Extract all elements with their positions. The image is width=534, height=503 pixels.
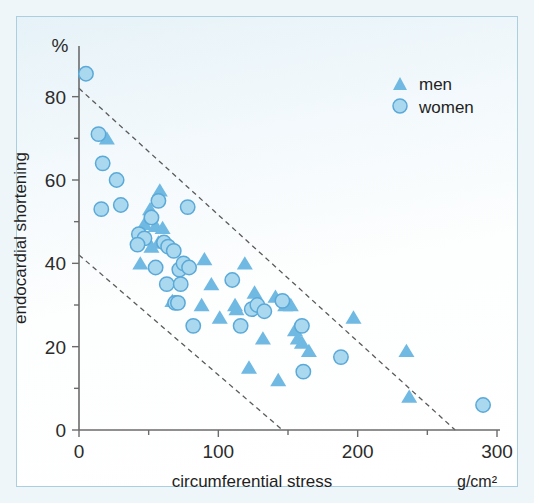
data-point-women xyxy=(167,244,181,258)
data-point-women xyxy=(79,67,93,81)
data-point-men xyxy=(270,373,286,386)
data-point-women xyxy=(171,296,185,310)
legend-label-men: men xyxy=(419,75,452,94)
y-tick-label: 60 xyxy=(45,170,66,191)
data-point-women xyxy=(180,200,194,214)
data-point-women xyxy=(257,304,271,318)
x-tick-label: 100 xyxy=(202,441,234,462)
legend-marker-men xyxy=(393,77,407,90)
data-point-women xyxy=(334,350,348,364)
data-point-women xyxy=(151,194,165,208)
x-tick-label: 300 xyxy=(481,441,513,462)
data-point-women xyxy=(225,273,239,287)
tick-group: 0100200300020406080 xyxy=(45,87,513,462)
data-point-men xyxy=(212,310,228,323)
x-tick-label: 200 xyxy=(342,441,374,462)
data-point-men xyxy=(255,331,271,344)
legend-marker-women xyxy=(393,99,407,113)
data-point-women xyxy=(233,319,247,333)
data-point-men xyxy=(398,344,414,357)
data-point-women xyxy=(148,260,162,274)
data-point-women xyxy=(295,319,309,333)
data-point-women xyxy=(174,277,188,291)
data-point-men xyxy=(203,277,219,290)
y-tick-label: 80 xyxy=(45,87,66,108)
y-unit-label: % xyxy=(52,35,69,56)
data-point-women xyxy=(95,156,109,170)
legend: men women xyxy=(393,75,474,117)
data-point-men xyxy=(196,252,212,265)
data-point-women xyxy=(296,364,310,378)
x-axis-title: circumferential stress xyxy=(172,472,333,491)
x-tick-label: 0 xyxy=(74,441,85,462)
reference-lines-group xyxy=(79,88,455,430)
data-point-women xyxy=(130,237,144,251)
data-point-women xyxy=(94,202,108,216)
y-tick-label: 0 xyxy=(55,420,66,441)
data-point-women xyxy=(114,198,128,212)
legend-label-women: women xyxy=(418,98,474,117)
data-point-women xyxy=(160,277,174,291)
data-points-group xyxy=(79,67,491,413)
data-point-women xyxy=(109,173,123,187)
data-point-men xyxy=(194,298,210,311)
data-point-women xyxy=(186,319,200,333)
data-point-women xyxy=(144,210,158,224)
data-point-women xyxy=(182,260,196,274)
data-point-women xyxy=(91,127,105,141)
data-point-men xyxy=(401,389,417,402)
data-point-men xyxy=(241,360,257,373)
figure-container: 0100200300020406080 % endocardial shorte… xyxy=(0,0,534,503)
y-axis-title: endocardial shortening xyxy=(11,152,30,324)
upper-boundary xyxy=(79,88,455,430)
x-unit-label: g/cm² xyxy=(457,473,498,490)
data-point-women xyxy=(476,398,490,412)
data-point-men xyxy=(132,256,148,269)
scatter-chart: 0100200300020406080 % endocardial shorte… xyxy=(0,0,534,503)
data-point-men xyxy=(247,285,263,298)
y-tick-label: 20 xyxy=(45,337,66,358)
data-point-men xyxy=(237,256,253,269)
data-point-women xyxy=(275,294,289,308)
data-point-men xyxy=(345,310,361,323)
y-tick-label: 40 xyxy=(45,253,66,274)
